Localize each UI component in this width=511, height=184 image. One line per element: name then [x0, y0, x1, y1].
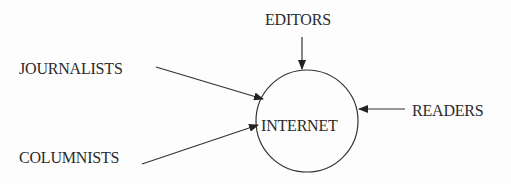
columnists-label: COLUMNISTS [19, 150, 119, 166]
journalists-arrow [156, 67, 263, 99]
diagram-canvas: JOURNALISTS COLUMNISTS EDITORS READERS I… [0, 0, 511, 184]
editors-label: EDITORS [265, 12, 331, 28]
journalists-label: JOURNALISTS [19, 61, 123, 77]
readers-label: READERS [412, 103, 484, 119]
columnists-arrow [142, 125, 258, 164]
internet-hub-label: INTERNET [261, 118, 338, 134]
